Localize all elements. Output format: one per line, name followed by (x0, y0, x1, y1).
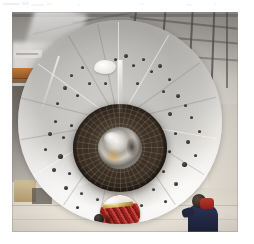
core-highlight (104, 132, 120, 144)
scan-artifact (22, 2, 29, 5)
scan-artifact (214, 3, 217, 5)
scan-artifact (78, 4, 81, 6)
bolt-hole (132, 64, 135, 67)
scan-artifact (140, 3, 144, 5)
bolt-hole (190, 116, 193, 119)
paint-patch (94, 60, 116, 74)
hub-metallic-core (98, 127, 142, 169)
scan-artifact (186, 4, 192, 6)
bolt-hole (142, 58, 145, 61)
scan-artifact-strip (0, 0, 254, 11)
bolt-hole (64, 186, 68, 190)
bolt-hole (76, 94, 79, 97)
bolt-hole (52, 168, 56, 172)
bolt-hole (70, 74, 73, 77)
bolt-hole (76, 206, 79, 209)
bolt-hole (198, 130, 201, 133)
bolt-hole (158, 64, 162, 68)
bolt-hole (136, 82, 139, 85)
bolt-hole (70, 124, 73, 127)
bolt-hole (174, 132, 177, 135)
bolt-hole (44, 148, 47, 151)
bolt-hole (81, 66, 84, 69)
bolt-hole (186, 140, 190, 144)
bolt-hole (68, 172, 71, 175)
bolt-hole (48, 132, 52, 136)
worker (180, 190, 226, 232)
core-shadow (126, 137, 138, 157)
bolt-hole (88, 82, 91, 85)
roof-truss (226, 12, 228, 88)
scan-artifact (3, 3, 20, 5)
core-warm-reflection (106, 149, 122, 163)
bolt-hole (63, 86, 67, 90)
bolt-hole (174, 182, 178, 186)
bolt-hole (56, 102, 59, 105)
bolt-hole (168, 150, 171, 153)
bolt-hole (182, 162, 187, 167)
red-white-round-object (98, 193, 142, 224)
bolt-hole (162, 90, 165, 93)
bolt-hole (54, 120, 57, 123)
bolt-hole (150, 70, 153, 73)
photograph: Large circular industrial component view… (12, 12, 238, 232)
central-hub (73, 104, 167, 192)
bolt-hole (62, 136, 65, 139)
bolt-hole (58, 154, 63, 159)
scan-artifact (31, 4, 44, 6)
worker-red-item (200, 198, 214, 209)
bolt-hole (176, 94, 180, 98)
scan-artifact (47, 3, 52, 5)
bolt-hole (104, 82, 107, 85)
bolt-hole (184, 104, 187, 107)
bolt-hole (168, 78, 171, 81)
bolt-hole (162, 170, 165, 173)
spindle-reflection (118, 60, 123, 116)
bolt-hole (194, 154, 197, 157)
bolt-hole (168, 112, 172, 116)
large-bolt-hole (94, 214, 104, 224)
bolt-hole (124, 54, 128, 58)
page-canvas: Large circular industrial component view… (0, 0, 254, 244)
